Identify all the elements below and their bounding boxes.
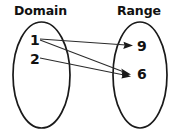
domain-oval: [13, 22, 70, 128]
domain-heading: Domain: [14, 5, 67, 18]
diagram-canvas: [0, 0, 174, 134]
mapping-diagram: Domain Range 1 2 9 6: [0, 0, 174, 134]
domain-element-2: 2: [30, 52, 40, 66]
domain-element-1: 1: [30, 33, 40, 47]
mapping-arrow-2-to-6: [40, 58, 131, 79]
range-element-6: 6: [137, 67, 147, 81]
range-element-9: 9: [137, 39, 147, 53]
range-heading: Range: [117, 5, 161, 18]
